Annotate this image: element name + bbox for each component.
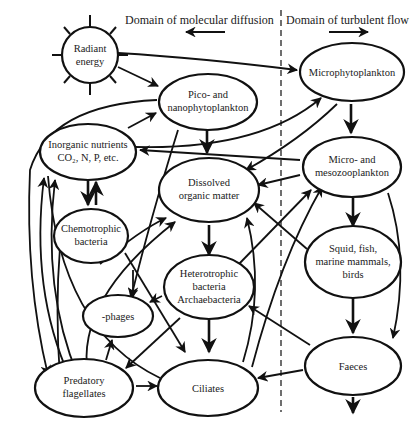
- node-pico-nanophytoplankton: Pico- and nanophytoplankton: [159, 74, 257, 130]
- svg-text:Radiant: Radiant: [74, 43, 107, 54]
- svg-text:Inorganic nutrients: Inorganic nutrients: [48, 139, 127, 150]
- svg-text:bacteria: bacteria: [74, 236, 108, 247]
- svg-text:marine mammals,: marine mammals,: [315, 256, 390, 267]
- svg-text:-phages: -phages: [102, 311, 135, 322]
- node-ciliates: Ciliates: [158, 360, 258, 416]
- svg-text:Faeces: Faeces: [339, 361, 368, 372]
- svg-text:birds: birds: [343, 269, 364, 280]
- svg-text:Ciliates: Ciliates: [192, 383, 224, 394]
- node-squid-fish-mammals-birds: Squid, fish, marine mammals, birds: [305, 226, 401, 298]
- node-phages: -phages: [83, 295, 153, 337]
- node-faeces: Faeces: [305, 337, 401, 395]
- svg-text:Micro- and: Micro- and: [329, 154, 377, 165]
- svg-text:Microphytoplankton: Microphytoplankton: [309, 67, 396, 78]
- svg-text:CO₂, N, P, etc.: CO₂, N, P, etc.: [57, 152, 118, 163]
- svg-text:flagellates: flagellates: [62, 388, 105, 399]
- node-heterotrophic-bacteria: Heterotrophic bacteria Archaebacteria: [164, 255, 254, 319]
- node-microphytoplankton: Microphytoplankton: [300, 43, 404, 101]
- node-inorganic-nutrients: Inorganic nutrients CO₂, N, P, etc.: [40, 124, 136, 180]
- svg-text:organic matter: organic matter: [179, 190, 240, 201]
- svg-text:nanophytoplankton: nanophytoplankton: [167, 102, 249, 113]
- svg-text:Pico- and: Pico- and: [188, 89, 229, 100]
- svg-text:Archaebacteria: Archaebacteria: [177, 294, 241, 305]
- svg-text:Squid, fish,: Squid, fish,: [329, 243, 377, 254]
- svg-text:Dissolved: Dissolved: [188, 177, 231, 188]
- domain-molecular-diffusion-label: Domain of molecular diffusion: [125, 13, 274, 27]
- node-micro-mesozooplankton: Micro- and mesozooplankton: [303, 137, 401, 197]
- node-predatory-flagellates: Predatory flagellates: [35, 359, 133, 417]
- svg-text:bacteria: bacteria: [192, 281, 226, 292]
- svg-text:Heterotrophic: Heterotrophic: [180, 268, 239, 279]
- svg-text:Predatory: Predatory: [64, 375, 106, 386]
- svg-text:mesozooplankton: mesozooplankton: [315, 167, 390, 178]
- svg-text:energy: energy: [76, 56, 105, 67]
- node-radiant-energy: Radiant energy: [52, 15, 128, 95]
- domain-turbulent-flow-label: Domain of turbulent flow: [286, 13, 409, 27]
- svg-text:Chemotrophic: Chemotrophic: [61, 223, 121, 234]
- node-dissolved-organic-matter: Dissolved organic matter: [159, 158, 259, 222]
- food-web-diagram: Domain of molecular diffusion Domain of …: [0, 0, 417, 433]
- node-chemotrophic-bacteria: Chemotrophic bacteria: [54, 209, 128, 263]
